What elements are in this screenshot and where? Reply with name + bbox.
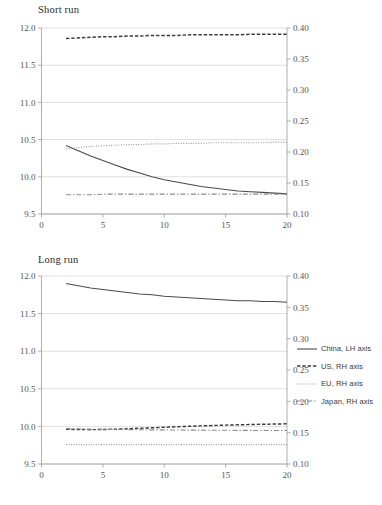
legend-swatch-dashdot-icon	[296, 396, 318, 406]
svg-text:0.25: 0.25	[293, 116, 309, 126]
svg-text:0.10: 0.10	[293, 459, 309, 469]
svg-text:20: 20	[283, 470, 293, 480]
svg-text:20: 20	[283, 220, 293, 230]
legend-label: EU, RH axis	[321, 379, 363, 388]
svg-text:5: 5	[101, 470, 106, 480]
svg-text:10.5: 10.5	[20, 384, 36, 394]
chart-panel-short-run: Short run 9.510.010.511.011.512.00.100.1…	[0, 0, 382, 250]
svg-text:0.30: 0.30	[293, 85, 309, 95]
chart-legend: China, LH axisUS, RH axisEU, RH axisJapa…	[296, 340, 382, 410]
svg-text:15: 15	[221, 470, 231, 480]
figure-root: Short run 9.510.010.511.011.512.00.100.1…	[0, 0, 382, 505]
chart-svg-short-run: 9.510.010.511.011.512.00.100.150.200.250…	[0, 0, 382, 250]
svg-text:0.40: 0.40	[293, 23, 309, 33]
legend-label: China, LH axis	[321, 344, 371, 353]
svg-text:0.35: 0.35	[293, 54, 309, 64]
svg-text:12.0: 12.0	[20, 23, 36, 33]
svg-text:0: 0	[39, 220, 44, 230]
series-line-china	[66, 146, 287, 194]
svg-text:0.35: 0.35	[293, 303, 309, 313]
svg-text:15: 15	[221, 220, 231, 230]
svg-text:10.0: 10.0	[20, 422, 36, 432]
svg-text:9.5: 9.5	[24, 459, 36, 469]
svg-text:0.10: 0.10	[293, 209, 309, 219]
series-line-eu	[66, 142, 287, 149]
svg-text:0.15: 0.15	[293, 178, 309, 188]
svg-text:11.5: 11.5	[20, 309, 36, 319]
legend-item-japan[interactable]: Japan, RH axis	[296, 393, 382, 411]
svg-text:11.0: 11.0	[20, 346, 36, 356]
series-line-us	[66, 34, 287, 38]
svg-text:11.0: 11.0	[20, 98, 36, 108]
svg-text:0.40: 0.40	[293, 271, 309, 281]
legend-item-eu[interactable]: EU, RH axis	[296, 375, 382, 393]
plot-area-short-run: 9.510.010.511.011.512.00.100.150.200.250…	[0, 0, 382, 250]
svg-text:9.5: 9.5	[24, 209, 36, 219]
legend-item-china[interactable]: China, LH axis	[296, 340, 382, 358]
legend-label: US, RH axis	[321, 362, 363, 371]
legend-swatch-dashed-icon	[296, 361, 318, 371]
legend-swatch-solid-icon	[296, 344, 318, 354]
svg-text:10: 10	[160, 220, 170, 230]
svg-text:0.15: 0.15	[293, 428, 309, 438]
svg-text:12.0: 12.0	[20, 271, 36, 281]
svg-text:0: 0	[39, 470, 44, 480]
legend-swatch-dotted-icon	[296, 379, 318, 389]
svg-text:10: 10	[160, 470, 170, 480]
svg-text:0.20: 0.20	[293, 147, 309, 157]
svg-text:10.0: 10.0	[20, 172, 36, 182]
svg-text:10.5: 10.5	[20, 135, 36, 145]
svg-text:5: 5	[101, 220, 106, 230]
series-line-japan	[66, 194, 287, 195]
svg-text:11.5: 11.5	[20, 60, 36, 70]
legend-item-us[interactable]: US, RH axis	[296, 358, 382, 376]
legend-label: Japan, RH axis	[321, 397, 373, 406]
series-line-china	[66, 284, 287, 303]
